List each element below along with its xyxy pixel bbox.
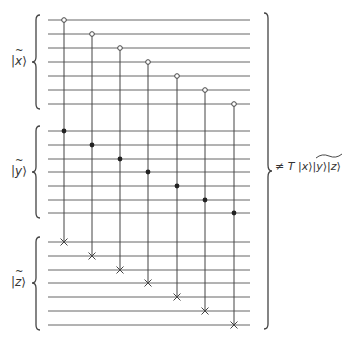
- open-control-icon: [175, 74, 180, 79]
- gates: [61, 18, 238, 329]
- open-control-icon: [62, 18, 67, 23]
- filled-control-icon: [146, 170, 151, 175]
- output-ket-y: y: [316, 160, 323, 173]
- output-ket-z: z: [331, 160, 337, 173]
- toffoli-gate: [145, 60, 152, 287]
- toffoli-gate: [117, 46, 124, 274]
- open-control-icon: [146, 60, 151, 65]
- left-braces: [32, 15, 40, 330]
- filled-control-icon: [203, 198, 208, 203]
- filled-control-icon: [232, 211, 237, 216]
- toffoli-gate: [202, 88, 209, 315]
- filled-control-icon: [62, 129, 67, 134]
- brace-z: [32, 237, 40, 330]
- brace-output: [264, 13, 272, 329]
- open-control-icon: [232, 102, 237, 107]
- output-prefix: ≠: [275, 160, 284, 173]
- register-label-z: |z⟩: [11, 275, 26, 289]
- toffoli-gate: [174, 74, 181, 301]
- filled-control-icon: [175, 184, 180, 189]
- open-control-icon: [90, 32, 95, 37]
- output-operator: T: [288, 160, 295, 173]
- brace-y: [32, 126, 40, 218]
- brace-x: [32, 15, 40, 109]
- output-state-label: ≠ T |x⟩|y⟩|z⟩: [275, 160, 341, 173]
- register-label-y: |y⟩: [11, 164, 27, 178]
- open-control-icon: [118, 46, 123, 51]
- toffoli-gate: [231, 102, 238, 329]
- filled-control-icon: [118, 157, 123, 162]
- wide-tilde-icon: [315, 153, 343, 159]
- open-control-icon: [203, 88, 208, 93]
- toffoli-gate: [61, 18, 68, 246]
- output-ket-x: x: [302, 160, 309, 173]
- toffoli-gate: [89, 32, 96, 260]
- filled-control-icon: [90, 143, 95, 148]
- register-label-x: |x⟩: [11, 54, 27, 68]
